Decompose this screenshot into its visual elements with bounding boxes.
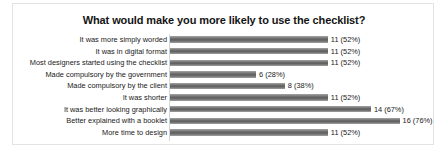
bar-fill [170, 71, 256, 77]
bar-row: It was shorter11 (52%) [0, 92, 448, 104]
bar-value-label: 11 (52%) [331, 34, 360, 46]
bar [170, 94, 328, 100]
chart-figure: What would make you more likely to use t… [0, 0, 448, 152]
bar-fill [170, 106, 371, 112]
bar-value-label: 16 (76%) [403, 115, 433, 127]
bar [170, 71, 256, 77]
category-label: It was more simply worded [80, 34, 167, 46]
bar-fill [170, 48, 328, 54]
bar-row: Better explained with a booklet16 (76%) [0, 115, 448, 127]
bar-fill [170, 118, 400, 124]
bar-fill [170, 129, 328, 135]
bar-value-label: 11 (52%) [331, 57, 360, 69]
bar-row: More time to design11 (52%) [0, 127, 448, 139]
bar-row: It was in digital format11 (52%) [0, 46, 448, 58]
bar-value-label: 8 (38%) [288, 80, 314, 92]
category-label: It was shorter [123, 92, 167, 104]
bar-row: Made compulsory by the client8 (38%) [0, 80, 448, 92]
bar-value-label: 11 (52%) [331, 92, 360, 104]
bar-fill [170, 83, 285, 89]
category-label: It was better looking graphically [64, 104, 167, 116]
plot-area: It was more simply worded11 (52%)It was … [0, 34, 448, 142]
category-label: Better explained with a booklet [66, 115, 167, 127]
category-label: Most designers started using the checkli… [30, 57, 167, 69]
bar [170, 118, 400, 124]
bar-fill [170, 36, 328, 42]
bar-value-label: 14 (67%) [374, 104, 404, 116]
category-label: More time to design [102, 127, 167, 139]
bar-fill [170, 94, 328, 100]
category-label: Made compulsory by the government [45, 69, 167, 81]
bar-row: It was more simply worded11 (52%) [0, 34, 448, 46]
bar [170, 60, 328, 66]
bar-value-label: 11 (52%) [331, 127, 360, 139]
category-label: Made compulsory by the client [67, 80, 167, 92]
bar-row: Made compulsory by the government6 (28%) [0, 69, 448, 81]
bar [170, 106, 371, 112]
bar-value-label: 11 (52%) [331, 46, 360, 58]
bar [170, 129, 328, 135]
bar-row: Most designers started using the checkli… [0, 57, 448, 69]
bar-fill [170, 60, 328, 66]
bar-row: It was better looking graphically14 (67%… [0, 104, 448, 116]
category-label: It was in digital format [96, 46, 167, 58]
bar [170, 36, 328, 42]
bar-value-label: 6 (28%) [259, 69, 285, 81]
chart-title: What would make you more likely to use t… [0, 14, 448, 26]
bar [170, 48, 328, 54]
bar [170, 83, 285, 89]
